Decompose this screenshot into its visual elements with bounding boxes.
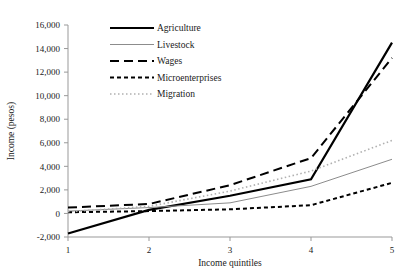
y-tick-label: 12,000 [35,67,60,77]
legend-label-agriculture: Agriculture [157,23,201,33]
y-tick-label: 14,000 [35,44,60,54]
line-chart: -2,00002,0004,0006,0008,00010,00012,0001… [0,0,408,273]
y-tick-label: 2,000 [40,185,61,195]
legend-label-livestock: Livestock [157,40,195,50]
x-axis-title: Income quintiles [198,258,262,268]
legend-label-migration: Migration [157,89,195,99]
legend-label-microenterprises: Microenterprises [157,73,222,83]
y-tick-label: 8,000 [40,114,61,124]
x-tick-label: 2 [147,245,152,255]
y-tick-label: 4,000 [40,162,61,172]
y-axis-title: Income (pesos) [6,102,17,160]
x-tick-label: 1 [66,245,71,255]
x-tick-label: 5 [390,245,395,255]
y-tick-label: 0 [56,209,61,219]
y-tick-label: 10,000 [35,91,60,101]
legend-label-wages: Wages [157,56,182,66]
chart-canvas: -2,00002,0004,0006,0008,00010,00012,0001… [0,0,408,273]
y-tick-label: 6,000 [40,138,61,148]
chart-background [0,0,408,273]
x-tick-label: 4 [309,245,314,255]
y-tick-label: -2,000 [37,232,61,242]
y-tick-label: 16,000 [35,20,60,30]
x-tick-label: 3 [228,245,233,255]
